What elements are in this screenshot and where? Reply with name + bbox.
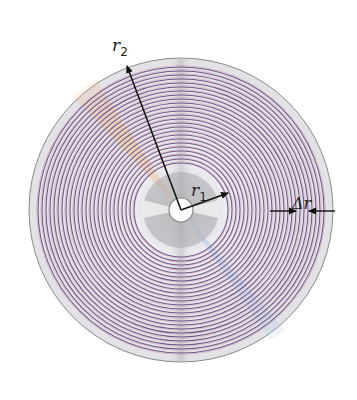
delta-r-label: Δr <box>291 194 313 213</box>
r2-label: r2 <box>112 35 128 59</box>
cd-track-diagram: r2 r1 Δr <box>0 0 357 400</box>
